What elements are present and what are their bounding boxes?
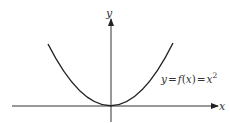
parabola-diagram: x y y=f(x)=x2 bbox=[0, 0, 230, 123]
curve-equation-label: y=f(x)=x2 bbox=[160, 71, 218, 85]
eq-paren-close: ) bbox=[192, 73, 196, 85]
eq-exponent: 2 bbox=[213, 71, 218, 80]
eq-y: y bbox=[160, 73, 168, 85]
y-axis-label: y bbox=[105, 7, 113, 20]
x-axis-label: x bbox=[219, 100, 226, 113]
eq-equals-1: = bbox=[168, 73, 177, 85]
eq-equals-2: = bbox=[197, 73, 206, 85]
